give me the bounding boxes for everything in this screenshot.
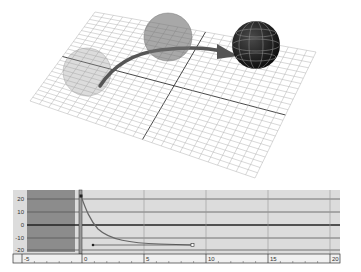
y-tick-label: -10 bbox=[15, 235, 24, 241]
x-tick-label: -5 bbox=[24, 256, 30, 262]
3d-viewport[interactable] bbox=[0, 0, 361, 185]
x-tick-label: 15 bbox=[270, 256, 277, 262]
ghost-sphere-2[interactable] bbox=[144, 13, 192, 61]
keyframe-start[interactable] bbox=[80, 195, 83, 198]
y-tick-label: 20 bbox=[17, 196, 24, 202]
x-tick-label: 20 bbox=[332, 256, 339, 262]
graph-editor[interactable]: 20100-10-20 -505101520 bbox=[0, 185, 361, 272]
time-ruler[interactable] bbox=[13, 254, 340, 263]
ghost-sphere-1[interactable] bbox=[63, 48, 111, 96]
keyframe-end[interactable] bbox=[191, 244, 194, 247]
y-tick-label: 10 bbox=[17, 209, 24, 215]
y-tick-label: -20 bbox=[15, 247, 24, 253]
current-sphere[interactable] bbox=[232, 21, 280, 69]
x-tick-label: 10 bbox=[208, 256, 215, 262]
time-slider[interactable] bbox=[79, 190, 82, 254]
keyframe-handle[interactable] bbox=[92, 244, 95, 247]
